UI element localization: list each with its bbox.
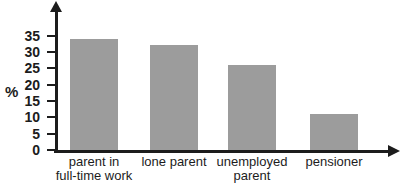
y-tick-mark (47, 133, 55, 135)
bar-chart: % 05101520253035 parent infull-time work… (0, 0, 404, 193)
y-tick-label: 25 (8, 60, 40, 76)
bar-2 (150, 45, 198, 150)
y-tick-label: 10 (8, 109, 40, 125)
y-tick-label: 20 (8, 77, 40, 93)
bar-1 (70, 39, 118, 150)
category-label-line: parent (192, 169, 312, 183)
y-tick-mark (47, 67, 55, 69)
arrow-up-icon (50, 1, 62, 12)
y-tick-label: 35 (8, 28, 40, 44)
y-tick-mark (47, 149, 55, 151)
y-tick-label: 30 (8, 44, 40, 60)
y-tick-label: 5 (8, 126, 40, 142)
bar-3 (228, 65, 276, 150)
bar-4 (310, 114, 358, 150)
x-axis-line (54, 150, 390, 153)
y-tick-label: 15 (8, 93, 40, 109)
category-label-line: full-time work (34, 169, 154, 183)
y-tick-mark (47, 116, 55, 118)
y-tick-mark (47, 51, 55, 53)
y-tick-mark (47, 100, 55, 102)
category-label-line: pensioner (274, 155, 394, 169)
category-label-4: pensioner (274, 155, 394, 169)
y-tick-mark (47, 84, 55, 86)
y-axis-line (55, 9, 58, 151)
y-tick-mark (47, 35, 55, 37)
